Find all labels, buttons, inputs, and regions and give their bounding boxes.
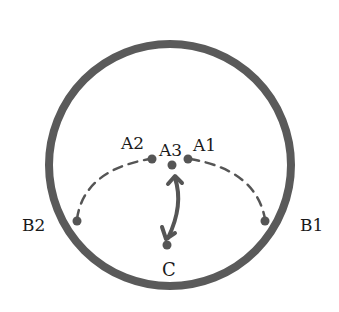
- dashed-arc-right: [190, 159, 265, 219]
- double-arrow-a3-c: [168, 178, 178, 238]
- point-b2: [73, 217, 82, 226]
- point-c: [163, 241, 172, 250]
- diagram-svg: A2 A3 A1 B2 B1 C: [0, 0, 339, 312]
- label-c: C: [162, 259, 176, 280]
- label-a3: A3: [158, 140, 182, 160]
- point-b1: [261, 217, 270, 226]
- point-a1: [184, 155, 193, 164]
- point-a3: [168, 161, 177, 170]
- dashed-arc-left: [77, 159, 150, 219]
- label-a2: A2: [120, 133, 144, 153]
- label-a1: A1: [192, 135, 216, 155]
- diagram-canvas: A2 A3 A1 B2 B1 C: [0, 0, 339, 312]
- point-a2: [148, 155, 157, 164]
- label-b1: B1: [300, 215, 323, 235]
- label-b2: B2: [22, 215, 45, 235]
